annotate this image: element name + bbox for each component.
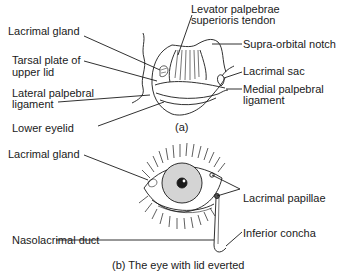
label-lacrimal-sac: Lacrimal sac [243, 66, 305, 77]
label-levator-line2: superioris tendon [191, 15, 275, 26]
label-lower-eyelid: Lower eyelid [12, 123, 74, 134]
label-lacrimal-papillae: Lacrimal papillae [243, 193, 326, 204]
label-lacrimal-gland-a: Lacrimal gland [8, 26, 80, 37]
caption-b: (b) The eye with lid everted [112, 260, 244, 271]
label-medial-ligament-line2: ligament [243, 95, 285, 106]
label-lacrimal-gland-b: Lacrimal gland [8, 149, 80, 160]
caption-a: (a) [175, 122, 188, 133]
label-tarsal-plate-line2: upper lid [12, 67, 54, 78]
label-nasolacrimal-duct: Nasolacrimal duct [12, 235, 99, 246]
label-inferior-concha: Inferior concha [243, 228, 316, 239]
label-tarsal-plate-line1: Tarsal plate of [12, 55, 80, 66]
label-supra-orbital-notch: Supra-orbital notch [243, 39, 336, 50]
label-lateral-ligament-line2: ligament [12, 99, 54, 110]
